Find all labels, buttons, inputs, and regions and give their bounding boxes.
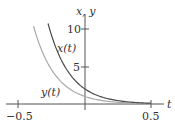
chart: x, y t −0.5 0.5 5 10 x(t) y(t) bbox=[0, 0, 175, 132]
series-x-curve bbox=[48, 24, 151, 104]
x-tick-label-pos: 0.5 bbox=[142, 110, 160, 123]
y-axis-label: x, y bbox=[76, 5, 96, 18]
series-label-x: x(t) bbox=[57, 42, 76, 55]
y-tick-label-10: 10 bbox=[67, 23, 81, 36]
series-label-y: y(t) bbox=[40, 86, 60, 99]
x-tick-label-neg: −0.5 bbox=[6, 110, 33, 123]
x-axis-label: t bbox=[167, 98, 172, 111]
y-tick-label-5: 5 bbox=[73, 61, 80, 74]
